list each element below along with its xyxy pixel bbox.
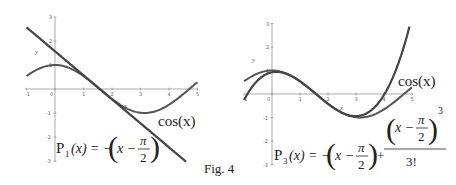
y-tick-label: 2 xyxy=(49,38,52,44)
formula-pi-2: π xyxy=(418,112,425,127)
y-tick-label: -2 xyxy=(46,134,51,140)
formula-subscript: 1 xyxy=(65,149,70,159)
formula-arg: (x) = − xyxy=(71,141,112,157)
formula-arg: (x) = − xyxy=(289,148,330,164)
y-tick-label: 3 xyxy=(49,14,52,20)
x-tick-label: 3 xyxy=(139,91,142,97)
y-tick-label: 3 xyxy=(266,21,269,27)
x-tick-label: 4 xyxy=(168,91,171,97)
x-tick-label: 3 xyxy=(355,96,358,102)
x-tick-label: 1 xyxy=(82,91,85,97)
formula-denominator: 3! xyxy=(406,154,417,169)
formula-pi: π xyxy=(358,140,365,155)
y-tick-label: -3 xyxy=(46,158,51,164)
y-tick-label: 2 xyxy=(266,44,269,50)
formula-inner: x − xyxy=(116,141,136,156)
formula-inner-2: x − xyxy=(394,120,414,135)
y-tick-label: -1 xyxy=(46,110,51,116)
x-tick-label: 0 xyxy=(50,91,53,97)
formula-pi: π xyxy=(140,133,147,148)
x-tick-label: 0 xyxy=(267,96,270,102)
formula-subscript: 3 xyxy=(283,156,288,166)
formula-two-2: 2 xyxy=(418,129,425,144)
paren-close-2: ) xyxy=(428,112,438,146)
y-tick-label: -1 xyxy=(263,115,268,121)
x-tick-label: 5 xyxy=(411,96,414,102)
figure-canvas: -1012345321-1-2-3 y x cos(x) P 1 (x) = −… xyxy=(0,0,456,185)
formula-lhs: P xyxy=(274,147,282,163)
left-paren-close: ) xyxy=(150,130,160,164)
right-plot: -1012345321-1-2-3 y x cos(x) P 3 (x) = −… xyxy=(243,21,447,173)
figure-caption: Fig. 4 xyxy=(204,161,235,176)
x-tick-label: -1 xyxy=(25,91,30,97)
left-formula: P 1 (x) = − ( x − π 2 ) xyxy=(56,130,160,165)
left-plot: -1012345321-1-2-3 y x cos(x) P 1 (x) = −… xyxy=(25,14,199,165)
y-tick-label: -3 xyxy=(263,162,268,168)
y-tick-label: -2 xyxy=(263,138,268,144)
formula-lhs: P xyxy=(56,140,64,156)
formula-exponent: 3 xyxy=(438,105,443,116)
formula-two: 2 xyxy=(358,157,365,172)
right-y-axis-label: y xyxy=(251,56,256,64)
right-cos-label: cos(x) xyxy=(398,73,436,90)
x-tick-label: 2 xyxy=(111,91,114,97)
left-cos-label: cos(x) xyxy=(158,113,196,130)
x-tick-label: 2 xyxy=(327,96,330,102)
formula-two: 2 xyxy=(140,150,147,165)
formula-inner: x − xyxy=(334,148,354,163)
x-tick-label: 1 xyxy=(299,96,302,102)
left-y-axis-label: y xyxy=(34,48,39,56)
formula-plus: + xyxy=(377,148,384,163)
x-tick-label: 5 xyxy=(196,91,199,97)
